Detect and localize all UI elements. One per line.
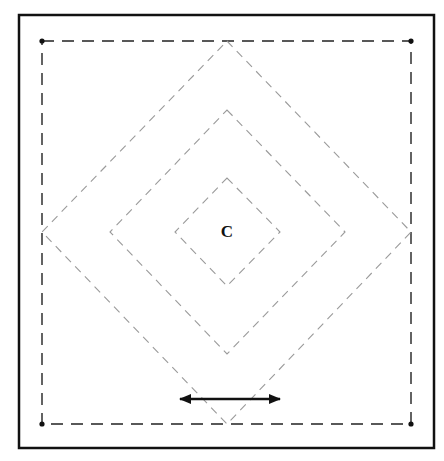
corner-dot (39, 38, 44, 43)
corner-dot (408, 38, 413, 43)
corner-dot (39, 421, 44, 426)
center-label: C (221, 222, 233, 242)
corner-dot (408, 421, 413, 426)
